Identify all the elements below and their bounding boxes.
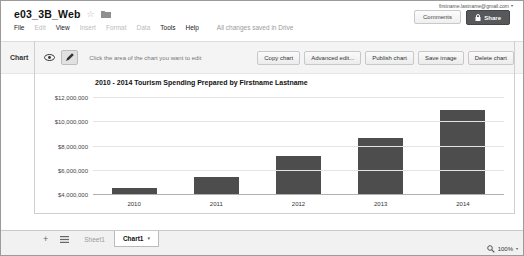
preview-eye-button[interactable] [41,50,58,65]
hamburger-icon [60,236,69,243]
x-axis-label: 2013 [340,201,422,207]
menu-edit: Edit [34,24,45,31]
folder-icon[interactable] [101,10,111,18]
gridline [93,97,504,98]
tab-chart1[interactable]: Chart1 ▾ [114,231,159,247]
menu-file[interactable]: File [14,24,24,31]
x-axis-label: 2012 [257,201,339,207]
magnifier-icon [487,245,495,253]
zoom-level: 100% [498,246,513,252]
bar-2011[interactable] [194,177,239,195]
sheet-tabs: + Sheet1 Chart1 ▾ [37,231,159,247]
bar-column: 2014 [422,92,504,195]
comments-label: Comments [423,14,452,20]
menu-insert: Insert [80,24,96,31]
tab-chart1-label: Chart1 [123,235,144,242]
bar-column: 2013 [340,92,422,195]
bar-column: 2010 [93,92,175,195]
caret-down-icon: ▾ [516,247,518,251]
y-axis-tick-label: $12,000,000 [55,95,88,101]
save-status: All changes saved in Drive [217,24,294,31]
bars-layer: 20102011201220132014 [93,92,504,195]
lock-icon [475,14,481,21]
menu-format: Format [106,24,127,31]
edit-hint-text: Click the area of the chart you want to … [89,55,201,61]
y-axis-tick-label: $10,000,000 [55,119,88,125]
bar-2014[interactable] [440,110,485,195]
share-button[interactable]: Share [466,10,510,25]
menu-data: Data [137,24,151,31]
sheet-tab-bar: + Sheet1 Chart1 ▾ 100% ▾ [1,230,523,255]
document-title-row: e03_3B_Web ☆ [14,8,111,20]
caret-down-icon: ▾ [511,4,513,8]
comments-button[interactable]: Comments [414,10,461,24]
chart-panel-right-edge [514,41,515,74]
star-icon[interactable]: ☆ [87,10,95,19]
delete-chart-button[interactable]: Delete chart [468,51,514,65]
pencil-icon [65,53,74,62]
menu-view[interactable]: View [56,24,70,31]
gridline [93,121,504,122]
menu-help[interactable]: Help [185,24,198,31]
bar-column: 2011 [175,92,257,195]
account-email: firstname.lastname@gmail.com [439,3,509,9]
add-sheet-button[interactable]: + [37,231,54,247]
zoom-control[interactable]: 100% ▾ [487,245,518,253]
bar-2013[interactable] [358,138,403,195]
plot-area[interactable]: 20102011201220132014 $4,000,000$6,000,00… [93,92,504,195]
account-menu[interactable]: firstname.lastname@gmail.com ▾ [439,3,513,9]
bar-2012[interactable] [276,156,321,195]
gridline [93,146,504,147]
x-axis-label: 2010 [93,201,175,207]
y-axis-tick-label: $4,000,000 [58,192,88,198]
chart-edit-toolbar: Chart Click the area of the chart you wa… [1,41,523,74]
document-title[interactable]: e03_3B_Web [14,8,81,20]
tab-sheet1[interactable]: Sheet1 [75,231,114,247]
copy-chart-button[interactable]: Copy chart [257,51,300,65]
menu-bar: File Edit View Insert Format Data Tools … [14,24,293,31]
menu-tools[interactable]: Tools [160,24,175,31]
caret-down-icon: ▾ [147,236,150,241]
edit-pencil-button[interactable] [61,50,78,65]
y-axis-tick-label: $8,000,000 [58,144,88,150]
x-axis-label: 2011 [175,201,257,207]
gridline [93,194,504,195]
share-label: Share [484,15,501,21]
x-axis-label: 2014 [422,201,504,207]
chart-panel-left-edge [34,41,35,74]
all-sheets-menu-button[interactable] [54,231,75,247]
bar-column: 2012 [257,92,339,195]
publish-chart-button[interactable]: Publish chart [365,51,414,65]
chart-canvas[interactable]: 2010 - 2014 Tourism Spending Prepared by… [34,74,515,214]
chart-title[interactable]: 2010 - 2014 Tourism Spending Prepared by… [95,79,308,86]
eye-icon [44,54,55,61]
advanced-edit-button[interactable]: Advanced edit... [304,51,361,65]
chart-action-buttons: Copy chart Advanced edit... Publish char… [257,51,514,65]
app-window: firstname.lastname@gmail.com ▾ e03_3B_We… [0,0,524,256]
chart-panel-label: Chart [10,54,28,61]
gridline [93,170,504,171]
y-axis-tick-label: $6,000,000 [58,168,88,174]
save-image-button[interactable]: Save image [418,51,464,65]
